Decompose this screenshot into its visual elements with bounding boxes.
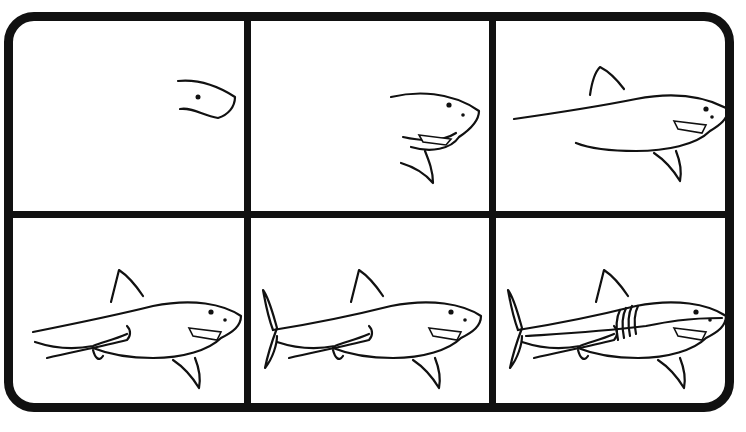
shark-body-drawing (496, 21, 734, 211)
shark-head-fin-drawing (251, 21, 489, 211)
step-1-panel (13, 21, 244, 211)
shark-fins-drawing (13, 218, 244, 412)
comic-frame (4, 12, 734, 412)
step-3-panel (496, 21, 734, 211)
step-5-panel (251, 218, 489, 412)
step-6-panel (496, 218, 734, 412)
shark-tail-drawing (251, 218, 489, 412)
step-4-panel (13, 218, 244, 412)
divider-horizontal (13, 211, 725, 218)
shark-complete-drawing (496, 218, 734, 412)
step-2-panel (251, 21, 489, 211)
shark-head-drawing (13, 21, 244, 211)
